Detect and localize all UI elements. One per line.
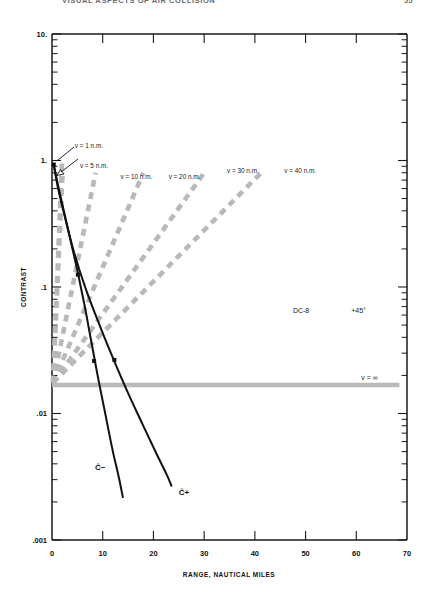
series-c-hat-plus <box>54 163 172 486</box>
x-axis-ticks <box>103 34 357 540</box>
series-label: v = ∞ <box>361 374 377 381</box>
x-tick-label: 60 <box>352 549 360 558</box>
leader-v1 <box>58 147 74 160</box>
x-tick-label: 0 <box>50 549 54 558</box>
chart-svg: 10.1..1.01.001 010203040506070 v = 1 n.m… <box>0 0 426 592</box>
c-minus-label: Ĉ− <box>95 463 106 472</box>
x-tick-label: 10 <box>99 549 107 558</box>
y-axis-tick-labels: 10.1..1.01.001 <box>32 30 47 545</box>
y-tick-label: .001 <box>32 536 47 545</box>
y-axis-title: CONTRAST <box>20 267 27 307</box>
x-tick-label: 20 <box>149 549 157 558</box>
y-tick-label: .1 <box>41 283 47 292</box>
y-tick-label: 1. <box>41 156 47 165</box>
x-axis-tick-labels: 010203040506070 <box>50 549 411 558</box>
label-leader-lines <box>57 147 78 176</box>
series-label: v = 40 n.m. <box>284 167 316 174</box>
x-tick-label: 70 <box>403 549 411 558</box>
series-label: v = 1 n.m. <box>75 142 103 149</box>
chart-annotations: DC-8+45°Ĉ−Ĉ+ <box>95 307 366 497</box>
c-plus-marker-1 <box>112 358 116 362</box>
contrast-curves <box>54 163 172 498</box>
series-label: v = 5 n.m. <box>80 162 108 169</box>
contrast-vs-range-chart: 10.1..1.01.001 010203040506070 v = 1 n.m… <box>0 0 426 592</box>
origin-marker <box>52 162 56 166</box>
series-label: v = 20 n.m. <box>169 173 201 180</box>
c-minus-marker-1 <box>76 273 80 277</box>
c-plus-label: Ĉ+ <box>179 488 190 497</box>
y-tick-label: .01 <box>37 409 47 418</box>
aspect-angle: +45° <box>351 307 366 314</box>
velocity-fan-lines <box>52 158 399 385</box>
c-minus-marker-2 <box>92 359 96 363</box>
x-tick-label: 40 <box>251 549 259 558</box>
aircraft-type: DC-8 <box>293 307 309 314</box>
x-axis-title: RANGE, NAUTICAL MILES <box>183 571 276 579</box>
x-tick-label: 30 <box>200 549 208 558</box>
series-label: v = 10 n.m. <box>120 173 152 180</box>
x-tick-label: 50 <box>301 549 309 558</box>
y-tick-label: 10. <box>37 30 47 39</box>
series-v-30-n-m- <box>53 171 205 382</box>
series-labels: v = 1 n.m.v = 5 n.m.v = 10 n.m.v = 20 n.… <box>75 142 378 380</box>
series-v-40-n-m- <box>53 171 263 382</box>
chart-axes: 10.1..1.01.001 010203040506070 <box>32 30 411 558</box>
series-label: v = 30 n.m. <box>227 167 259 174</box>
